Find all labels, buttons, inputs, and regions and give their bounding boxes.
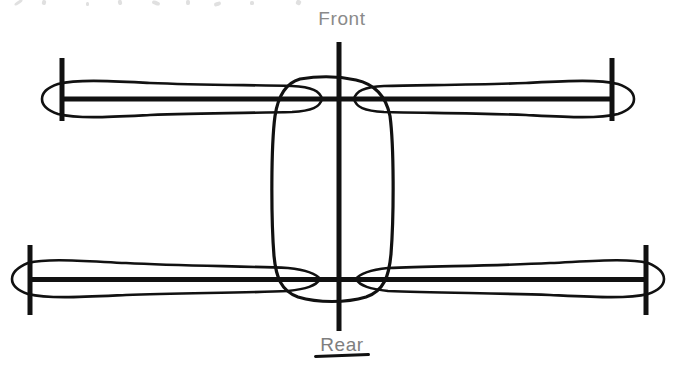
vehicle-top-view-drawing: [0, 0, 684, 376]
diagram-canvas: Front Rear: [0, 0, 684, 376]
front-orientation-label: Front: [0, 8, 684, 30]
rear-orientation-label-container: Rear: [0, 334, 684, 356]
